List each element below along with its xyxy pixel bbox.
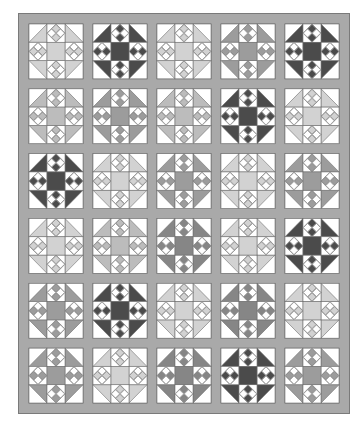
quilt-block [93, 24, 147, 79]
quilt-block [93, 283, 147, 338]
quilt-svg [18, 13, 350, 414]
quilt-block [285, 89, 339, 144]
quilt-block [157, 283, 211, 338]
quilt-block [29, 219, 83, 274]
quilt-block [93, 154, 147, 209]
quilt-block [285, 24, 339, 79]
quilt-block [157, 219, 211, 274]
quilt-image [18, 13, 350, 414]
quilt-block [29, 283, 83, 338]
quilt-block [285, 219, 339, 274]
quilt-block [29, 348, 83, 403]
quilt-block [285, 348, 339, 403]
quilt-block [221, 219, 275, 274]
quilt-block [93, 348, 147, 403]
quilt-block [29, 89, 83, 144]
quilt-block [29, 154, 83, 209]
quilt-block [157, 154, 211, 209]
quilt-block [221, 24, 275, 79]
quilt-block [285, 154, 339, 209]
quilt-block [93, 89, 147, 144]
quilt-block [93, 219, 147, 274]
quilt-block [157, 348, 211, 403]
quilt-block [157, 24, 211, 79]
quilt-block [221, 154, 275, 209]
quilt-block [221, 283, 275, 338]
quilt-block [221, 348, 275, 403]
quilt-block [285, 283, 339, 338]
quilt-block [157, 89, 211, 144]
quilt-block [221, 89, 275, 144]
quilt-block [29, 24, 83, 79]
